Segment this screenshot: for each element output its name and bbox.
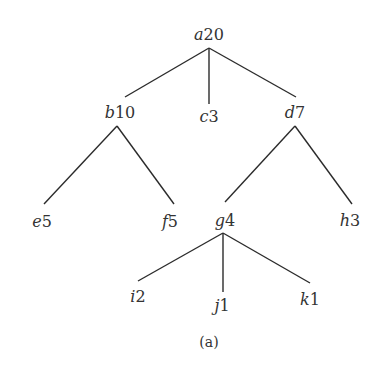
node-e: e5 [32,212,52,231]
node-d: d7 [285,103,305,122]
node-k: k1 [300,290,320,309]
tree-nodes: a20 b10 c3 d7 e5 f5 g4 h3 i2 j1 k1 [32,25,360,315]
edge-d-h [295,126,352,204]
node-c: c3 [199,107,218,126]
node-h: h3 [340,211,361,230]
node-a: a20 [194,25,224,44]
edge-b-f [117,126,174,204]
edge-g-i [138,233,223,281]
node-f: f5 [161,212,178,231]
node-b: b10 [105,103,136,122]
node-g: g4 [215,211,235,230]
edge-a-b [125,48,209,97]
edge-g-k [223,233,310,283]
tree-edges [44,48,352,292]
node-j: j1 [211,296,229,315]
edge-a-d [209,48,296,97]
edge-b-e [44,126,117,204]
tree-diagram: a20 b10 c3 d7 e5 f5 g4 h3 i2 j1 k1 (a) [0,0,384,371]
node-i: i2 [130,287,145,306]
edge-d-g [225,126,295,202]
figure-caption: (a) [199,334,218,350]
